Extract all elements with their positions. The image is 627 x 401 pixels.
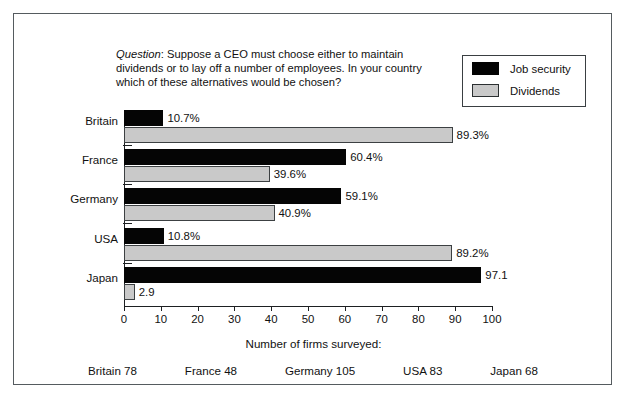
x-tick-label: 30 — [228, 313, 241, 325]
group-separator-tick — [123, 263, 132, 264]
bar-japan-dividends: 2.9 — [124, 284, 135, 300]
figure-frame: Question: Suppose a CEO must choose eith… — [13, 13, 612, 385]
x-tick-mark — [345, 306, 346, 311]
question-note: Question: Suppose a CEO must choose eith… — [116, 47, 446, 90]
bar-value-label: 89.2% — [456, 247, 488, 259]
bar-group: 59.1%40.9% — [124, 188, 492, 227]
bar-group: 60.4%39.6% — [124, 149, 492, 188]
bar-value-label: 59.1% — [345, 190, 377, 202]
x-tick-label: 20 — [191, 313, 204, 325]
question-label: Question — [116, 48, 161, 60]
group-separator-tick — [123, 184, 132, 185]
bar-france-job-security: 60.4% — [124, 149, 346, 165]
x-tick-label: 0 — [121, 313, 127, 325]
x-tick-mark — [271, 306, 272, 311]
bar-usa-dividends: 89.2% — [124, 245, 452, 261]
category-label-france: France — [44, 153, 118, 166]
legend-label-dividends: Dividends — [510, 85, 560, 97]
legend-item-job-security: Job security — [472, 62, 571, 75]
footer-count-item: Japan 68 — [490, 364, 538, 377]
footer-count-item: USA 83 — [403, 364, 442, 377]
bar-britain-dividends: 89.3% — [124, 127, 453, 143]
value-axis-ticks: 0102030405060708090100 — [124, 306, 493, 328]
x-tick-label: 100 — [482, 313, 501, 325]
x-tick-label: 60 — [338, 313, 351, 325]
group-separator-tick — [123, 145, 132, 146]
legend-item-dividends: Dividends — [472, 84, 560, 97]
bar-value-label: 10.8% — [168, 230, 200, 242]
bar-britain-job-security: 10.7% — [124, 110, 163, 126]
bar-germany-dividends: 40.9% — [124, 205, 275, 221]
bar-value-label: 2.9 — [139, 286, 155, 298]
group-separator-tick — [123, 223, 132, 224]
category-label-usa: USA — [44, 232, 118, 245]
x-tick-mark — [455, 306, 456, 311]
footer-count-item: Britain 78 — [88, 364, 137, 377]
chart-legend: Job security Dividends — [462, 55, 586, 107]
bar-japan-job-security: 97.1 — [124, 267, 481, 283]
bar-group: 10.7%89.3% — [124, 110, 492, 149]
bar-usa-job-security: 10.8% — [124, 228, 164, 244]
category-axis-labels: BritainFranceGermanyUSAJapan — [40, 110, 118, 306]
plot-area: 10.7%89.3%60.4%39.6%59.1%40.9%10.8%89.2%… — [124, 110, 492, 306]
bar-value-label: 60.4% — [350, 151, 382, 163]
x-tick-mark — [198, 306, 199, 311]
footer-counts: Britain 78France 48Germany 105USA 83Japa… — [88, 364, 538, 377]
footer-count-item: Germany 105 — [285, 364, 355, 377]
x-tick-mark — [161, 306, 162, 311]
x-tick-label: 10 — [154, 313, 167, 325]
bar-value-label: 10.7% — [167, 112, 199, 124]
x-tick-label: 90 — [449, 313, 462, 325]
x-tick-mark — [124, 306, 125, 311]
x-tick-mark — [382, 306, 383, 311]
bar-germany-job-security: 59.1% — [124, 188, 341, 204]
footer-title: Number of firms surveyed: — [14, 337, 613, 350]
legend-swatch-dividends — [472, 84, 499, 97]
bar-group: 10.8%89.2% — [124, 228, 492, 267]
category-label-japan: Japan — [44, 271, 118, 284]
x-tick-label: 80 — [412, 313, 425, 325]
legend-swatch-job-security — [472, 62, 499, 75]
question-text: : Suppose a CEO must choose either to ma… — [116, 48, 422, 88]
category-label-germany: Germany — [44, 192, 118, 205]
bar-value-label: 97.1 — [485, 269, 507, 281]
legend-label-job-security: Job security — [510, 63, 571, 75]
bar-value-label: 40.9% — [279, 207, 311, 219]
category-label-britain: Britain — [44, 114, 118, 127]
bar-value-label: 39.6% — [274, 168, 306, 180]
x-tick-label: 70 — [375, 313, 388, 325]
footer-count-item: France 48 — [185, 364, 237, 377]
x-tick-mark — [308, 306, 309, 311]
bar-france-dividends: 39.6% — [124, 166, 270, 182]
x-tick-mark — [492, 306, 493, 311]
x-tick-mark — [234, 306, 235, 311]
x-tick-label: 40 — [265, 313, 278, 325]
bar-group: 97.12.9 — [124, 267, 492, 306]
x-tick-label: 50 — [302, 313, 315, 325]
x-tick-mark — [418, 306, 419, 311]
bar-value-label: 89.3% — [457, 129, 489, 141]
